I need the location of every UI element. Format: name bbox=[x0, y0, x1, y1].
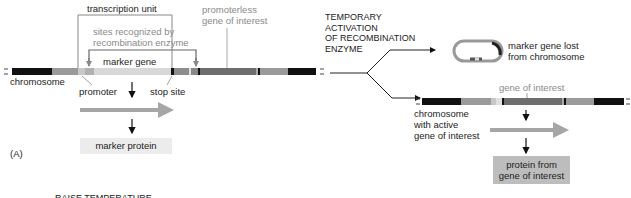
step-line3: OF RECOMBINATION bbox=[325, 33, 415, 44]
step-line1: TEMPORARY bbox=[325, 12, 415, 23]
recombination-step-label: TEMPORARY ACTIVATION OF RECOMBINATION EN… bbox=[325, 12, 415, 54]
recombination-sites-label: sites recognized by recombination enzyme bbox=[93, 26, 189, 48]
promoterless-gene-label: promoterless gene of interest bbox=[202, 4, 268, 26]
chrom-line3: gene of interest bbox=[414, 130, 480, 141]
promoter-label: promoter bbox=[79, 86, 117, 97]
chromosome-bar-recombined bbox=[422, 98, 624, 105]
transcription-unit-label: transcription unit bbox=[87, 3, 157, 14]
marker-gene-label: marker gene bbox=[103, 56, 156, 67]
protein-line1: protein from bbox=[493, 159, 570, 170]
protein-of-interest-box: protein from gene of interest bbox=[493, 156, 570, 184]
step-line2: ACTIVATION bbox=[325, 23, 415, 34]
lost-line2: from chromosome bbox=[508, 51, 585, 62]
chrom-line2: with active bbox=[414, 119, 480, 130]
panel-label: (A) bbox=[10, 148, 23, 159]
marker-gene-lost-label: marker gene lost from chromosome bbox=[508, 40, 585, 62]
chromosome-bar-original bbox=[12, 68, 316, 75]
promoterless-line1: promoterless bbox=[202, 4, 268, 15]
protein-line2: gene of interest bbox=[493, 170, 570, 181]
active-chromosome-label: chromosome with active gene of interest bbox=[414, 108, 480, 141]
stop-site-label: stop site bbox=[150, 86, 185, 97]
recombination-sites-line2: recombination enzyme bbox=[93, 37, 189, 48]
lost-line1: marker gene lost bbox=[508, 40, 585, 51]
recombination-sites-line1: sites recognized by bbox=[93, 26, 189, 37]
marker-protein-box: marker protein bbox=[80, 138, 172, 154]
raise-temperature-label: RAISE TEMPERATURE bbox=[55, 193, 152, 198]
step-line4: ENZYME bbox=[325, 44, 415, 55]
chrom-line1: chromosome bbox=[414, 108, 480, 119]
chromosome-label: chromosome bbox=[10, 76, 65, 87]
gene-of-interest-label: gene of interest bbox=[499, 82, 565, 93]
promoterless-line2: gene of interest bbox=[202, 15, 268, 26]
